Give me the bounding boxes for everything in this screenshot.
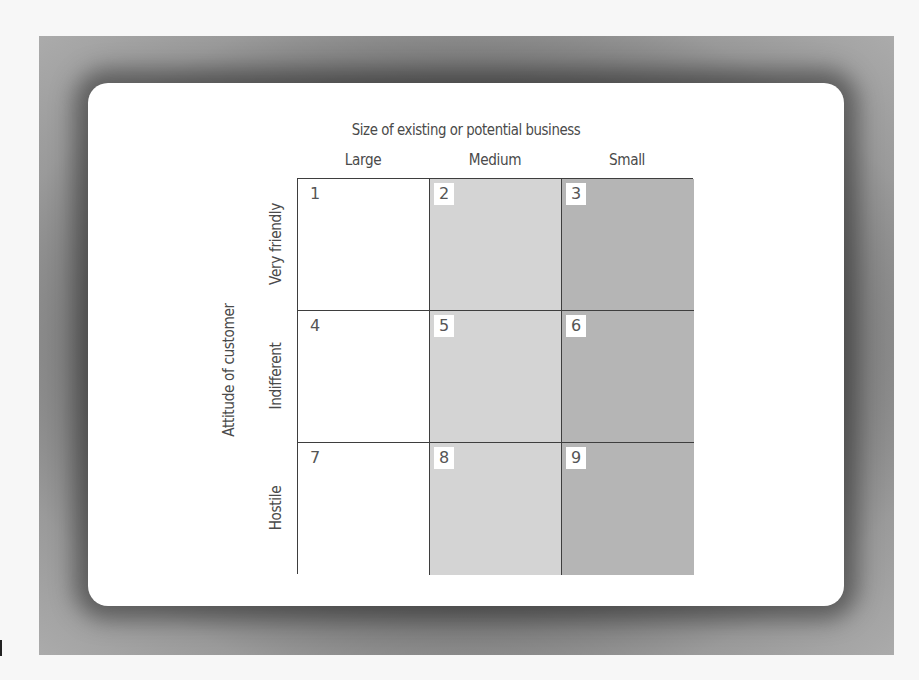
column-header-medium: Medium xyxy=(437,151,553,169)
cell-number: 5 xyxy=(434,315,454,337)
diagram-card: Size of existing or potential business L… xyxy=(88,83,844,606)
cell-number: 6 xyxy=(566,315,586,337)
y-axis-title: Attitude of customer xyxy=(219,282,239,458)
row-header-indifferent: Indifferent xyxy=(266,318,286,434)
cell-8: 8 xyxy=(430,443,562,575)
column-header-small: Small xyxy=(569,151,685,169)
x-axis-title: Size of existing or potential business xyxy=(141,121,791,139)
cell-number: 3 xyxy=(566,183,586,205)
cell-1: 1 xyxy=(298,179,430,311)
cell-6: 6 xyxy=(562,311,694,443)
cell-number: 8 xyxy=(434,447,454,469)
cell-number: 4 xyxy=(305,315,325,337)
margin-mark xyxy=(0,640,2,656)
column-header-large: Large xyxy=(305,151,421,169)
cell-5: 5 xyxy=(430,311,562,443)
cell-3: 3 xyxy=(562,179,694,311)
row-header-hostile: Hostile xyxy=(266,450,286,566)
cell-number: 2 xyxy=(434,183,454,205)
cell-number: 1 xyxy=(305,183,325,205)
matrix-grid: 1 2 3 4 5 6 7 8 9 xyxy=(297,178,693,574)
cell-4: 4 xyxy=(298,311,430,443)
cell-7: 7 xyxy=(298,443,430,575)
cell-2: 2 xyxy=(430,179,562,311)
cell-9: 9 xyxy=(562,443,694,575)
row-header-very-friendly: Very friendly xyxy=(266,186,286,302)
cell-number: 9 xyxy=(566,447,586,469)
cell-number: 7 xyxy=(305,447,325,469)
